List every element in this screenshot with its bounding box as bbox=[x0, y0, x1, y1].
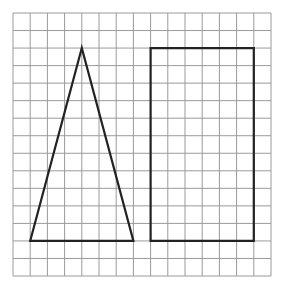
grid-lines bbox=[13, 13, 271, 276]
grid-figure bbox=[0, 0, 283, 286]
